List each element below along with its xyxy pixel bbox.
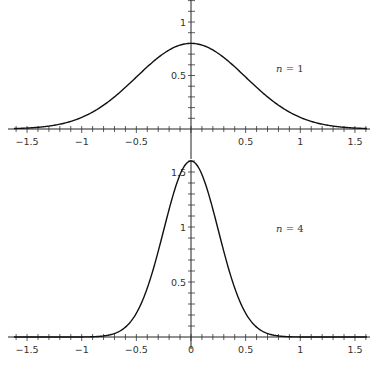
x-tick-label: −1 xyxy=(75,344,89,355)
chart-panel-2: −1.5−1−0.500.511.50.511.5n = 4 xyxy=(8,160,370,355)
x-tick-label: −1 xyxy=(75,136,89,147)
chart-panel-1: −1.5−1−0.50.511.50.51n = 1 xyxy=(8,0,370,159)
x-tick-label: 0.5 xyxy=(238,344,253,355)
x-tick-label: 1 xyxy=(297,136,303,147)
x-tick-label: −0.5 xyxy=(125,136,148,147)
y-tick-label: 0.5 xyxy=(171,277,186,288)
x-tick-label: 1.5 xyxy=(347,136,362,147)
x-tick-label: 0.5 xyxy=(238,136,253,147)
x-tick-label: 0 xyxy=(188,344,194,355)
curve-annotation: n = 1 xyxy=(276,63,304,74)
x-tick-label: −1.5 xyxy=(16,136,39,147)
y-tick-label: 1 xyxy=(180,17,186,28)
x-tick-label: 1.5 xyxy=(347,344,362,355)
y-tick-label: 0.5 xyxy=(171,70,186,81)
y-tick-label: 1 xyxy=(180,222,186,233)
curve-annotation: n = 4 xyxy=(276,223,304,234)
x-tick-label: 1 xyxy=(297,344,303,355)
x-tick-label: −1.5 xyxy=(16,344,39,355)
x-tick-label: −0.5 xyxy=(125,344,148,355)
chart-canvas: −1.5−1−0.50.511.50.51n = 1−1.5−1−0.500.5… xyxy=(0,0,381,366)
